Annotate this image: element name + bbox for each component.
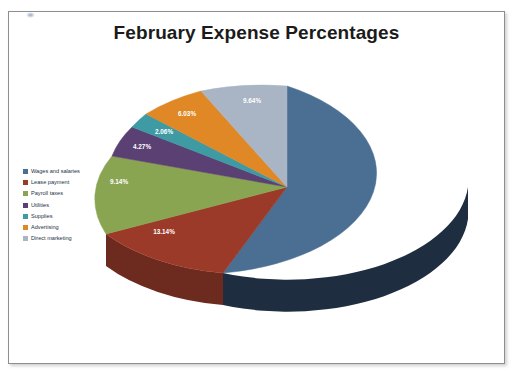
pie-label-advertising: 6.03%: [178, 110, 196, 117]
legend-item-label: Direct marketing: [31, 234, 72, 243]
legend-item-utilities[interactable]: Utilities: [23, 201, 115, 210]
legend-item-label: Utilities: [31, 201, 49, 210]
legend-item-advertising[interactable]: Advertising: [23, 223, 115, 232]
legend-item-supplies[interactable]: Supplies: [23, 212, 115, 221]
legend-swatch-icon: [23, 191, 28, 196]
legend-swatch-icon: [23, 203, 28, 208]
pie-label-utilities: 4.27%: [133, 143, 151, 150]
legend-item-label: Supplies: [31, 212, 52, 221]
legend-item-direct-marketing[interactable]: Direct marketing: [23, 234, 115, 243]
legend-swatch-icon: [23, 225, 28, 230]
pie-label-wages-and-salaries: 55.72%: [411, 184, 433, 191]
legend-swatch-icon: [23, 180, 28, 185]
legend-item-payroll-taxes[interactable]: Payroll taxes: [23, 189, 115, 198]
legend-swatch-icon: [23, 236, 28, 241]
legend-item-label: Payroll taxes: [31, 189, 63, 198]
legend-item-label: Advertising: [31, 223, 59, 232]
pie-label-lease-payment: 13.14%: [153, 228, 175, 235]
legend-swatch-icon: [23, 169, 28, 174]
legend: Wages and salaries Lease payment Payroll…: [23, 167, 115, 245]
legend-swatch-icon: [23, 214, 28, 219]
chart-frame: February Expense Percentages: [8, 11, 505, 364]
pie-label-direct-marketing: 9.64%: [243, 97, 261, 104]
pie-label-supplies: 2.06%: [155, 128, 173, 135]
pie-top-face: [95, 85, 377, 273]
legend-item-lease-payment[interactable]: Lease payment: [23, 178, 115, 187]
legend-item-label: Lease payment: [31, 178, 69, 187]
legend-item-label: Wages and salaries: [31, 167, 80, 176]
legend-item-wages-and-salaries[interactable]: Wages and salaries: [23, 167, 115, 176]
